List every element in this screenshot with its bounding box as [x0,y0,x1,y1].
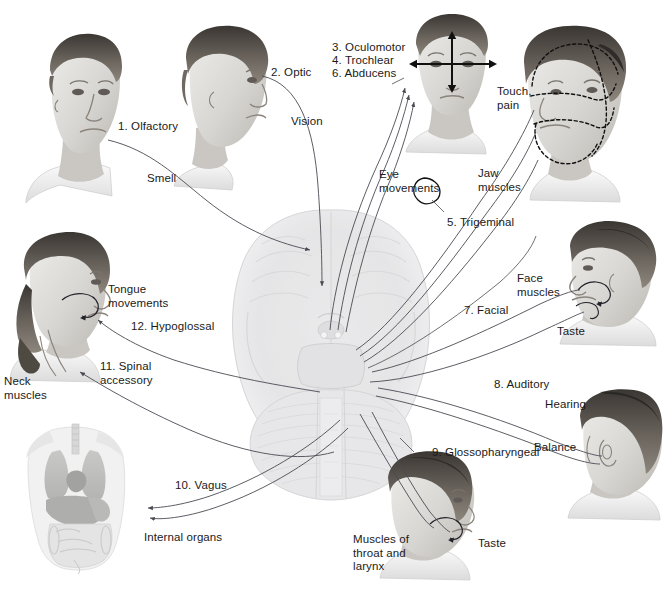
label-taste-facial: Taste [557,325,585,339]
nerve-path-trigeminal-maxillary [360,132,536,356]
label-glossopharyngeal: 9. Glossopharyngeal [432,446,539,460]
label-oculomotor: 3. Oculomotor [332,41,406,55]
label-eye-movements: Eye movements [379,168,439,195]
label-spinal-accessory: 11. Spinal accessory [100,360,153,387]
nerve-path-olfactory [108,140,310,250]
nerve-path-facial-muscles [372,290,580,372]
label-tongue-movements: Tongue movements [108,283,168,310]
cranial-nerve-figure: 1. Olfactory Smell 2. Optic Vision 3. Oc… [0,0,663,612]
label-muscles-throat-larynx: Muscles of throat and larynx [353,533,409,574]
nerve-path-trigeminal-jaw [368,236,536,368]
label-trigeminal: 5. Trigeminal [447,216,514,230]
nerve-path-glossopharyngeal-muscles [360,414,434,528]
nerve-path-vagus-upper [148,420,340,508]
nerve-path-optic [262,76,322,286]
label-optic: 2. Optic [271,66,311,80]
leader-trigeminal [432,200,444,212]
label-balance: Balance [534,441,576,455]
label-taste-glosso: Taste [478,537,506,551]
label-touch-pain: Touch, pain [497,85,531,112]
label-hypoglossal: 12. Hypoglossal [131,320,214,334]
label-neck-muscles: Neck muscles [4,375,47,402]
label-vagus: 10. Vagus [175,479,227,493]
nerve-path-oculomotor [330,88,405,330]
nerve-path-facial-taste [370,312,584,382]
label-jaw-muscles: Jaw muscles [478,167,521,194]
leader-glossopharyngeal [400,438,414,452]
label-vision: Vision [291,115,323,129]
label-face-muscles: Face muscles [517,272,560,299]
label-internal-organs: Internal organs [144,531,222,545]
label-abducens: 6. Abducens [332,67,396,81]
label-smell: Smell [147,172,176,186]
nerve-path-glossopharyngeal-taste [372,412,450,532]
label-hearing: Hearing [545,398,586,412]
label-facial: 7. Facial [464,304,508,318]
nerve-pathway-layer [0,0,663,612]
nerve-path-vagus-lower [150,428,348,519]
label-olfactory: 1. Olfactory [118,120,178,134]
nerve-path-trochlear [338,95,409,330]
label-trochlear: 4. Trochlear [332,54,394,68]
label-auditory: 8. Auditory [494,378,549,392]
